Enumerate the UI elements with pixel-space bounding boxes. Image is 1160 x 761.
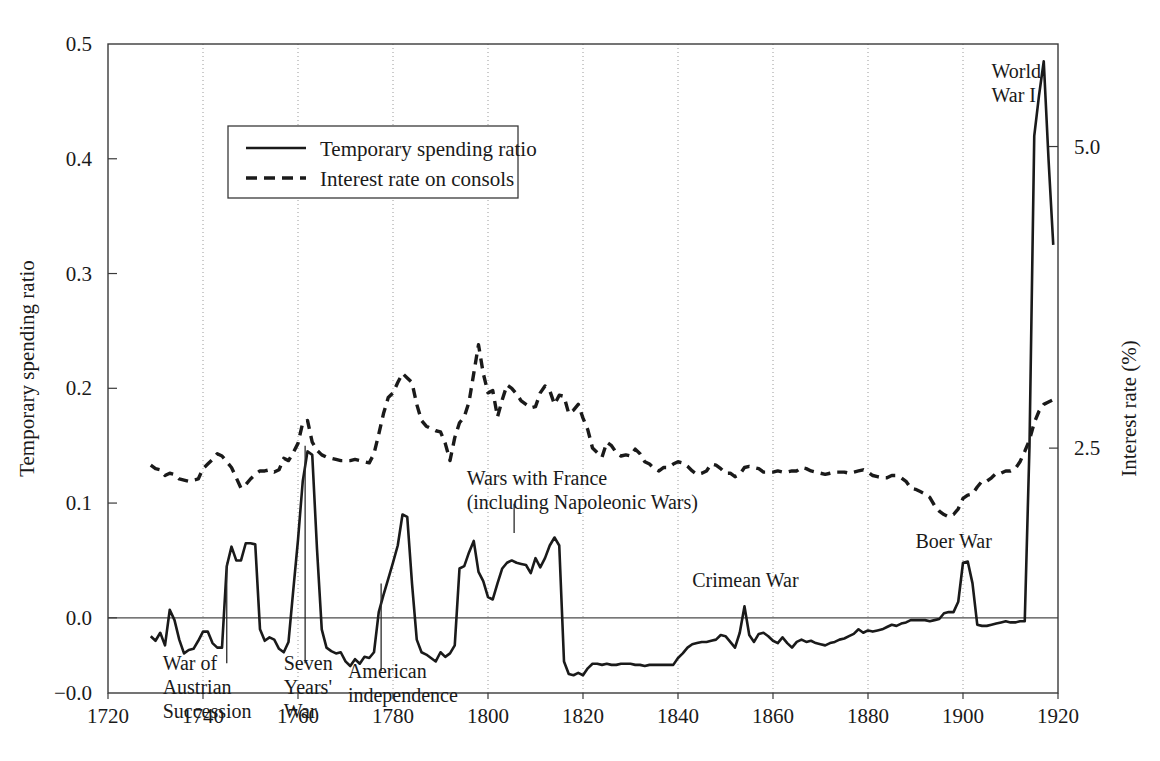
chart-figure: 1720174017601780180018201840186018801900… bbox=[0, 0, 1160, 761]
annotation-text-line: American bbox=[348, 660, 427, 682]
y-tick-label: 0.0 bbox=[66, 606, 92, 630]
x-tick-label: 1820 bbox=[562, 704, 604, 728]
y2-tick-label: 2.5 bbox=[1074, 436, 1100, 460]
annotation-text-line: Boer War bbox=[916, 530, 993, 552]
x-tick-label: 1720 bbox=[87, 704, 129, 728]
y-tick-label: 0.5 bbox=[66, 32, 92, 56]
annotation-american-independence: Americanindependence bbox=[348, 583, 458, 707]
annotation-text-line: Seven bbox=[284, 652, 333, 674]
annotation-boer-war: Boer War bbox=[916, 530, 993, 552]
y2-tick-label: 5.0 bbox=[1074, 135, 1100, 159]
annotation-text-line: War of bbox=[163, 652, 218, 674]
y-tick-label: −0.0 bbox=[54, 681, 92, 705]
chart-canvas: 1720174017601780180018201840186018801900… bbox=[0, 0, 1160, 761]
annotation-crimean-war: Crimean War bbox=[692, 569, 799, 591]
legend-label: Interest rate on consols bbox=[320, 167, 514, 191]
y-tick-label: 0.4 bbox=[66, 147, 93, 171]
annotation-text-line: Austrian bbox=[163, 676, 232, 698]
y-tick-label: 0.2 bbox=[66, 376, 92, 400]
x-tick-label: 1780 bbox=[372, 704, 414, 728]
x-tick-label: 1800 bbox=[467, 704, 509, 728]
y-tick-label: 0.3 bbox=[66, 262, 92, 286]
annotation-text-line: Years' bbox=[284, 676, 332, 698]
annotation-text-line: (including Napoleonic Wars) bbox=[467, 491, 698, 514]
annotation-text-line: Succession bbox=[163, 700, 252, 722]
axis-tick-labels: 1720174017601780180018201840186018801900… bbox=[54, 32, 1100, 728]
annotation-text-line: War bbox=[284, 700, 317, 722]
x-tick-label: 1840 bbox=[657, 704, 699, 728]
annotation-war-of-austrian-succession: War ofAustrianSuccession bbox=[163, 563, 252, 722]
y-axis-title: Temporary spending ratio bbox=[15, 260, 39, 477]
annotation-world-war-i: WorldWar I bbox=[992, 60, 1042, 106]
annotation-text-line: War I bbox=[992, 84, 1036, 106]
y2-axis-title: Interest rate (%) bbox=[1117, 340, 1141, 476]
annotation-text-line: Wars with France bbox=[467, 467, 608, 489]
x-tick-label: 1880 bbox=[847, 704, 889, 728]
annotation-text-line: Crimean War bbox=[692, 569, 799, 591]
annotation-seven-years-war: SevenYears'War bbox=[284, 446, 333, 722]
chart-legend[interactable]: Temporary spending ratioInterest rate on… bbox=[228, 126, 537, 198]
annotation-wars-with-france: Wars with France(including Napoleonic Wa… bbox=[467, 467, 698, 533]
annotation-text-line: independence bbox=[348, 684, 458, 707]
axis-titles: Temporary spending ratioInterest rate (%… bbox=[15, 260, 1141, 477]
x-tick-label: 1900 bbox=[942, 704, 984, 728]
x-tick-label: 1860 bbox=[752, 704, 794, 728]
annotation-text-line: World bbox=[992, 60, 1042, 82]
x-tick-label: 1920 bbox=[1037, 704, 1079, 728]
y-tick-label: 0.1 bbox=[66, 491, 92, 515]
legend-label: Temporary spending ratio bbox=[320, 137, 537, 161]
